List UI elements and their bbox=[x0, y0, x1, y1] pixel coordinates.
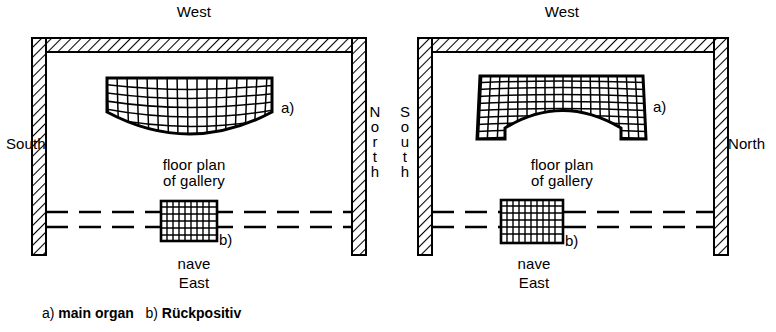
main-organ-shape-right bbox=[468, 68, 658, 150]
gallery-walls-right bbox=[418, 38, 728, 255]
callout-b-right: b) bbox=[565, 232, 578, 249]
callout-b-left: b) bbox=[219, 231, 232, 248]
direction-label-north: N o r t h bbox=[366, 104, 384, 179]
caption-label-b: Rückpositiv bbox=[162, 305, 241, 321]
figure-caption: a) main organ b) Rückpositiv bbox=[42, 305, 241, 321]
gallery-caption-line1: floor plan bbox=[134, 157, 254, 173]
wall-west-top bbox=[418, 38, 728, 52]
callout-a-right: a) bbox=[653, 98, 666, 115]
main-organ-grid-left bbox=[100, 70, 285, 165]
caption-marker-b: b) bbox=[145, 305, 157, 321]
direction-label-south: S o u t h bbox=[396, 104, 414, 179]
ruckpositiv-shape-right bbox=[499, 198, 565, 245]
direction-label-east: East bbox=[484, 275, 584, 291]
nave-label: nave bbox=[484, 256, 584, 272]
caption-marker-a: a) bbox=[42, 305, 54, 321]
wall-west-top bbox=[32, 38, 366, 52]
gallery-caption-line2: of gallery bbox=[502, 173, 622, 189]
ruckpositiv-shape-left bbox=[159, 199, 219, 243]
gallery-caption-line1: floor plan bbox=[502, 157, 622, 173]
caption-label-a: main organ bbox=[58, 305, 133, 321]
wall-north-right bbox=[714, 38, 728, 255]
wall-north-right bbox=[352, 38, 366, 255]
callout-a-left: a) bbox=[281, 99, 294, 116]
gallery-caption-line2: of gallery bbox=[134, 173, 254, 189]
main-organ-shape-left bbox=[100, 70, 285, 165]
floor-plan-panel-right: West S o u t h North floor plan of galle… bbox=[388, 0, 776, 300]
direction-label-east: East bbox=[144, 275, 244, 291]
floor-plan-panel-left: West South N o r t h floor plan of galle… bbox=[0, 0, 388, 300]
direction-label-west: West bbox=[512, 4, 612, 20]
gallery-dashed-lines-right bbox=[432, 212, 714, 227]
floor-plan-drawing-right bbox=[388, 0, 776, 300]
organ-gallery-floor-plan-figure: West South N o r t h floor plan of galle… bbox=[0, 0, 776, 332]
direction-label-south: South bbox=[6, 136, 46, 152]
direction-label-north: North bbox=[728, 136, 765, 152]
nave-label: nave bbox=[144, 256, 244, 272]
wall-south-left bbox=[418, 38, 432, 255]
direction-label-west: West bbox=[144, 4, 244, 20]
